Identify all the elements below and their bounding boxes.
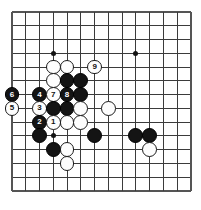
stone-white[interactable] xyxy=(101,101,116,116)
stone-black[interactable] xyxy=(87,128,102,143)
numbered-stone-9[interactable]: 9 xyxy=(87,60,102,75)
board-border-line-vertical xyxy=(190,12,192,191)
stone-black[interactable] xyxy=(73,87,88,102)
stone-white[interactable] xyxy=(60,115,75,130)
grid-line-vertical xyxy=(135,12,136,191)
stone-white[interactable] xyxy=(46,60,61,75)
stone-move-number: 8 xyxy=(65,91,69,99)
numbered-stone-5[interactable]: 5 xyxy=(5,101,20,116)
grid-line-vertical xyxy=(94,12,95,191)
stone-black[interactable] xyxy=(60,73,75,88)
stone-black[interactable] xyxy=(46,142,61,157)
grid-line-vertical xyxy=(163,12,164,191)
star-point xyxy=(51,133,56,138)
goban[interactable]: 964785321 xyxy=(0,0,201,210)
stone-black[interactable] xyxy=(46,101,61,116)
numbered-stone-7[interactable]: 7 xyxy=(46,87,61,102)
numbered-stone-2[interactable]: 2 xyxy=(32,115,47,130)
grid-line-vertical xyxy=(149,12,150,191)
grid-line-vertical xyxy=(177,12,178,191)
grid-line-vertical xyxy=(122,12,123,191)
stone-move-number: 1 xyxy=(51,118,55,126)
stone-black[interactable] xyxy=(32,128,47,143)
numbered-stone-4[interactable]: 4 xyxy=(32,87,47,102)
stone-black[interactable] xyxy=(142,128,157,143)
stone-white[interactable] xyxy=(46,73,61,88)
grid-line-vertical xyxy=(25,12,26,191)
stone-move-number: 3 xyxy=(37,104,41,112)
numbered-stone-6[interactable]: 6 xyxy=(5,87,20,102)
stone-black[interactable] xyxy=(128,128,143,143)
numbered-stone-1[interactable]: 1 xyxy=(46,115,61,130)
numbered-stone-8[interactable]: 8 xyxy=(60,87,75,102)
numbered-stone-3[interactable]: 3 xyxy=(32,101,47,116)
stone-move-number: 7 xyxy=(51,91,55,99)
stone-white[interactable] xyxy=(60,156,75,171)
star-point xyxy=(133,51,138,56)
star-point xyxy=(51,51,56,56)
stone-white[interactable] xyxy=(73,115,88,130)
stone-move-number: 9 xyxy=(92,63,96,71)
stone-move-number: 5 xyxy=(10,104,14,112)
stone-move-number: 2 xyxy=(37,118,41,126)
go-board-diagram: 964785321 xyxy=(0,0,201,210)
stone-move-number: 4 xyxy=(37,91,41,99)
stone-black[interactable] xyxy=(73,73,88,88)
stone-white[interactable] xyxy=(60,142,75,157)
stone-white[interactable] xyxy=(73,101,88,116)
stone-white[interactable] xyxy=(142,142,157,157)
stone-move-number: 6 xyxy=(10,91,14,99)
stone-black[interactable] xyxy=(60,101,75,116)
stone-white[interactable] xyxy=(60,60,75,75)
